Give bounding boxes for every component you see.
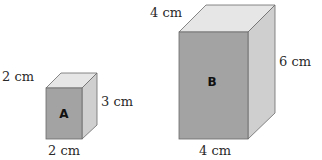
box-b-depth-label: 4 cm bbox=[150, 5, 182, 20]
box-a-depth-label: 2 cm bbox=[2, 69, 34, 84]
box-a-width-label: 2 cm bbox=[48, 143, 80, 158]
box-b: B 4 cm 6 cm 4 cm bbox=[150, 5, 311, 158]
box-a: A 2 cm 3 cm 2 cm bbox=[2, 69, 133, 158]
box-a-label: A bbox=[59, 107, 69, 121]
box-a-height-label: 3 cm bbox=[101, 94, 133, 109]
box-b-label: B bbox=[207, 75, 216, 89]
box-b-height-label: 6 cm bbox=[279, 54, 311, 69]
diagram-canvas: A 2 cm 3 cm 2 cm B 4 cm 6 cm 4 cm bbox=[0, 0, 322, 160]
box-b-width-label: 4 cm bbox=[199, 143, 231, 158]
